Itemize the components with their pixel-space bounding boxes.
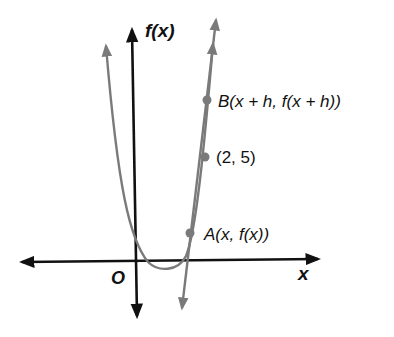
y-axis (132, 30, 137, 316)
secant-line (182, 20, 216, 308)
secant-diagram: f(x) x O B(x + h, f(x + h)) (2, 5) A(x, … (0, 0, 394, 337)
origin-label: O (111, 268, 125, 288)
point-b-label: B(x + h, f(x + h)) (218, 92, 341, 111)
parabola-curve (106, 44, 213, 269)
y-axis-label: f(x) (145, 20, 175, 41)
point-2-5 (201, 153, 210, 162)
point-b (203, 96, 212, 105)
x-axis (22, 259, 318, 262)
point-a (186, 229, 195, 238)
point-a-label: A(x, f(x)) (203, 225, 269, 244)
x-axis-label: x (297, 263, 310, 284)
point-2-5-label: (2, 5) (216, 148, 256, 167)
